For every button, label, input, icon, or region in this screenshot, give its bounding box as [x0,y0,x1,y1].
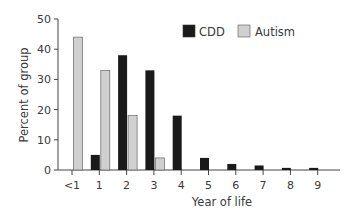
y-tick-label: 50 [37,13,51,26]
bar-cdd [145,70,154,170]
x-tick-label: 9 [314,179,321,192]
x-tick-label: 6 [232,179,239,192]
legend-swatch-autism [238,25,250,37]
bar-cdd [309,168,318,170]
bar-cdd [118,55,127,170]
bar-autism [74,37,83,170]
x-axis: <1123456789 [58,170,340,192]
x-tick-label: 4 [178,179,185,192]
legend-label-autism: Autism [255,25,295,39]
y-tick-label: 30 [37,73,51,86]
bar-cdd [227,164,236,170]
y-tick-label: 0 [44,164,51,177]
bar-cdd [200,158,209,170]
legend-swatch-cdd [183,25,195,37]
y-axis: 01020304050 [37,13,58,177]
bar-cdd [255,165,264,170]
bar-autism [155,158,164,170]
x-tick-label: 3 [150,179,157,192]
y-tick-label: 10 [37,134,51,147]
x-axis-title: Year of life [191,195,252,209]
y-tick-label: 40 [37,43,51,56]
legend: CDD Autism [183,25,295,39]
x-tick-label: <1 [64,179,80,192]
x-tick-label: 1 [96,179,103,192]
bar-chart: 01020304050 <1123456789 Percent of group… [0,0,347,211]
x-tick-label: 5 [205,179,212,192]
bars [74,37,319,170]
y-tick-label: 20 [37,104,51,117]
bar-autism [101,70,110,170]
y-axis-title: Percent of group [17,47,31,142]
bar-cdd [173,116,182,170]
x-tick-label: 8 [287,179,294,192]
bar-cdd [282,168,291,170]
bar-autism [128,116,137,170]
legend-label-cdd: CDD [199,25,225,39]
x-tick-label: 2 [123,179,130,192]
x-tick-label: 7 [260,179,267,192]
bar-cdd [91,155,100,170]
